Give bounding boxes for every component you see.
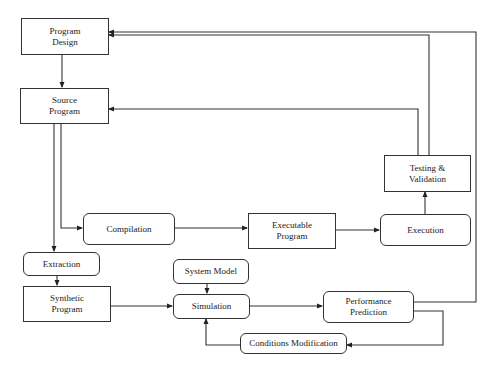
node-system-model: System Model	[173, 259, 249, 284]
node-source-program: Source Program	[20, 88, 109, 124]
node-executable-program: Executable Program	[248, 213, 336, 249]
node-label: Simulation	[192, 301, 232, 312]
edge-source-to-compilation	[61, 123, 82, 228]
node-label: Performance Prediction	[346, 296, 392, 318]
edge-conditions-to-simulation	[206, 319, 240, 345]
node-label: System Model	[185, 266, 237, 277]
node-extraction: Extraction	[23, 252, 100, 276]
node-label: Execution	[407, 225, 444, 236]
node-synthetic-program: Synthetic Program	[23, 286, 111, 322]
node-compilation: Compilation	[83, 213, 175, 245]
node-conditions-modification: Conditions Modification	[240, 333, 347, 354]
node-testing-validation: Testing & Validation	[384, 155, 471, 192]
node-simulation: Simulation	[173, 294, 250, 319]
edge-testing-to-source	[109, 109, 418, 155]
node-label: Synthetic Program	[50, 293, 84, 315]
node-label: Extraction	[43, 259, 81, 270]
node-label: Compilation	[107, 224, 152, 235]
node-program-design: Program Design	[21, 18, 109, 55]
edge-testing-to-design	[109, 35, 429, 155]
node-label: Source Program	[49, 95, 80, 117]
node-performance-prediction: Performance Prediction	[323, 291, 414, 323]
node-label: Program Design	[50, 26, 81, 48]
node-execution: Execution	[380, 214, 471, 246]
node-label: Testing & Validation	[409, 163, 446, 185]
node-label: Conditions Modification	[249, 338, 338, 349]
node-label: Executable Program	[272, 220, 312, 242]
